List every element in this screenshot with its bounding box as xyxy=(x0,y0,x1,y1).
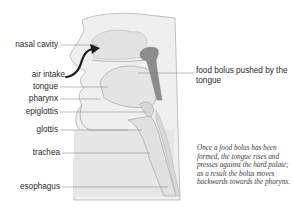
label-esophagus: esophagus xyxy=(20,183,60,191)
label-glottis: glottis xyxy=(37,126,58,134)
label-epiglottis: epiglottis xyxy=(26,108,58,116)
label-food-bolus: food bolus pushed by the tongue xyxy=(196,66,291,86)
label-pharynx: pharynx xyxy=(29,95,58,103)
label-tongue: tongue xyxy=(33,83,58,91)
swallowing-diagram: nasal cavity air intake tongue pharynx e… xyxy=(0,0,293,215)
label-trachea: trachea xyxy=(33,149,60,157)
caption-text: Once a food bolus has been formed, the t… xyxy=(197,144,292,187)
label-nasal-cavity: nasal cavity xyxy=(15,41,58,49)
nasal-cavity-shape xyxy=(92,30,147,59)
label-air-intake: air intake xyxy=(32,71,65,79)
